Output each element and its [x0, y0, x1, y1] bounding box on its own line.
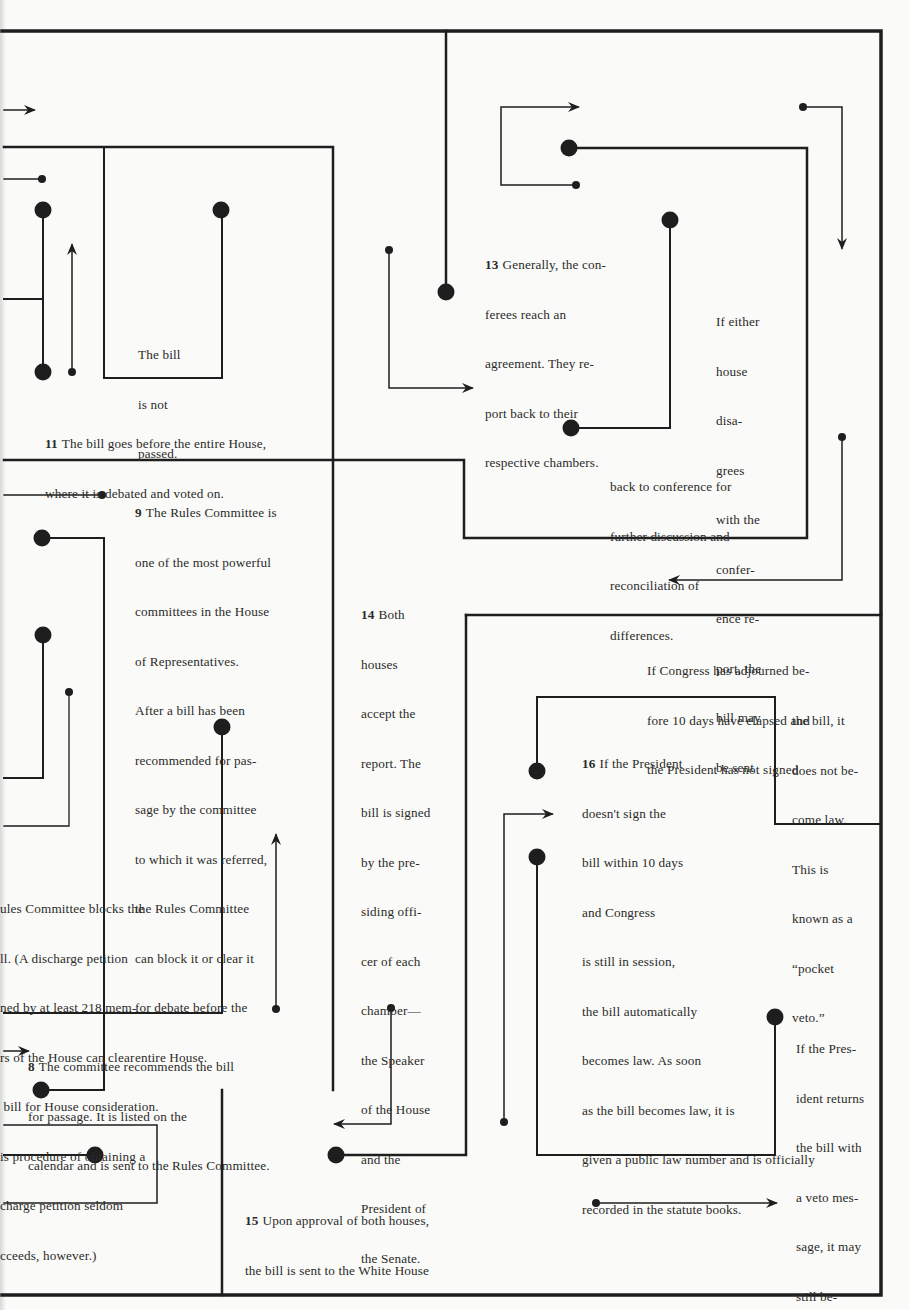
step-line: becomes law. As soon [582, 1053, 815, 1070]
step-line: houses [361, 657, 431, 674]
step-line: The committee recommends the bill [39, 1059, 234, 1074]
step-16-text: 16If the President doesn't sign the bill… [582, 723, 815, 1235]
step-line: the Speaker [361, 1053, 431, 1070]
note-line: further discussion and [610, 529, 732, 546]
step-line: and Congress [582, 905, 815, 922]
note-line: If either [716, 314, 761, 331]
step-13-text: 13Generally, the con- ferees reach an ag… [485, 224, 606, 488]
step-number: 15 [245, 1213, 259, 1228]
step-line: is still in session, [582, 954, 815, 971]
step-number: 16 [582, 756, 596, 771]
step-line: agreement. They re- [485, 356, 606, 373]
step-line: for passage. It is listed on the [28, 1109, 270, 1126]
step-line: the bill automatically [582, 1004, 815, 1021]
step-line: cer of each [361, 954, 431, 971]
step-line: the bill is sent to the White House [245, 1263, 429, 1280]
step-line: Upon approval of both houses, [263, 1213, 430, 1228]
note-veto-override: If the Pres- ident returns the bill with… [796, 1008, 864, 1310]
note-line: sage, it may [796, 1239, 864, 1256]
step-line: Generally, the con- [503, 257, 606, 272]
step-line: as the bill becomes law, it is [582, 1103, 815, 1120]
step-number: 14 [361, 607, 375, 622]
step-line: report. The [361, 756, 431, 773]
step-line: siding offi- [361, 904, 431, 921]
note-line: the bill with [796, 1140, 864, 1157]
step-line: of the House [361, 1102, 431, 1119]
step-line: ferees reach an [485, 307, 606, 324]
note-line: ned by at least 218 mem- [0, 1000, 159, 1017]
step-8-text: 8The committee recommends the bill for p… [28, 1026, 270, 1191]
step-line: accept the [361, 706, 431, 723]
note-line: If the Pres- [796, 1041, 864, 1058]
step-number: 11 [45, 436, 58, 451]
note-conference-disagree-tail: back to conference for further discussio… [610, 446, 732, 661]
step-line: chamber— [361, 1003, 431, 1020]
step-line: If the President [600, 756, 683, 771]
step-line: bill within 10 days [582, 855, 815, 872]
note-line: charge petition seldom [0, 1198, 159, 1215]
note-line: ident returns [796, 1091, 864, 1108]
step-line: given a public law number and is officia… [582, 1152, 815, 1169]
note-line: cceeds, however.) [0, 1248, 159, 1265]
step-line: recommended for pas- [135, 753, 277, 770]
note-line: a veto mes- [796, 1190, 864, 1207]
step-number: 8 [28, 1059, 35, 1074]
note-line: ules Committee blocks the [0, 901, 159, 918]
step-line: to which it was referred, [135, 852, 277, 869]
step-line: and the [361, 1152, 431, 1169]
step-line: respective chambers. [485, 455, 606, 472]
step-line: committees in the House [135, 604, 277, 621]
step-line: of Representatives. [135, 654, 277, 671]
step-line: calendar and is sent to the Rules Commit… [28, 1158, 270, 1175]
note-line: house [716, 364, 761, 381]
step-14-text: 14Both houses accept the report. The bil… [361, 574, 431, 1284]
step-line: by the pre- [361, 855, 431, 872]
step-line: Both [379, 607, 405, 622]
step-line: bill is signed [361, 805, 431, 822]
note-line: If Congress has adjourned be- [647, 663, 810, 680]
note-line: reconciliation of [610, 578, 732, 595]
note-line: disa- [716, 413, 761, 430]
note-line: The bill [138, 347, 181, 364]
step-15-text: 15Upon approval of both houses, the bill… [245, 1180, 429, 1310]
note-line: back to conference for [610, 479, 732, 496]
step-line: recorded in the statute books. [582, 1202, 815, 1219]
step-line: The bill goes before the entire House, [62, 436, 267, 451]
step-line: The Rules Committee is [146, 505, 277, 520]
step-line: port back to their [485, 406, 606, 423]
step-number: 9 [135, 505, 142, 520]
step-number: 13 [485, 257, 499, 272]
note-line: ll. (A discharge petition [0, 951, 159, 968]
step-line: one of the most powerful [135, 555, 277, 572]
step-line: After a bill has been [135, 703, 277, 720]
note-line: still be- [796, 1289, 864, 1306]
step-line: sage by the committee [135, 802, 277, 819]
step-line: doesn't sign the [582, 806, 815, 823]
